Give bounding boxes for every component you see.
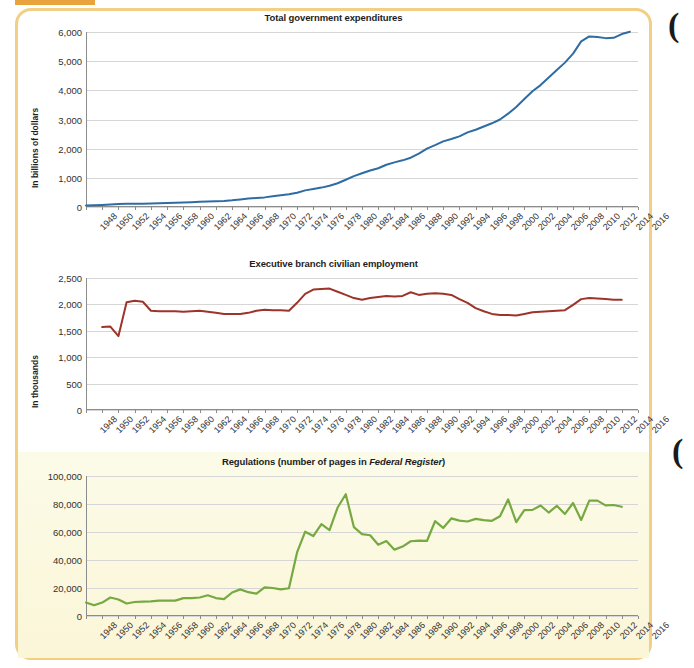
x-axis-tick-mark [86,616,87,619]
x-axis-tick-mark [362,616,363,619]
x-axis-tick-mark [86,410,87,413]
x-axis-tick-mark [524,616,525,619]
x-axis-tick-mark [118,616,119,619]
x-axis-tick-mark [606,616,607,619]
x-axis-tick-mark [476,616,477,619]
x-axis-tick-label: 2012 [617,414,638,435]
chart-3-title-suffix: ) [442,456,445,467]
x-axis-tick-mark [216,616,217,619]
y-axis-tick-label: 1,000 [58,172,82,183]
x-axis-tick-mark [541,616,542,619]
chart-total-government-expenditures: Total government expenditures In billion… [18,12,649,260]
x-axis-tick-mark [589,410,590,413]
x-axis-tick-label: 2010 [601,620,622,641]
x-axis-tick-mark [573,616,574,619]
x-axis-tick-label: 2002 [536,414,557,435]
y-axis-tick-label: 1,500 [58,325,82,336]
x-axis-tick-mark [102,410,103,413]
x-axis-tick-mark [135,207,136,210]
x-axis-tick-mark [330,616,331,619]
x-axis-tick-label: 1976 [325,620,346,641]
y-axis-tick-label: 40,000 [53,555,82,566]
x-axis-tick-mark [443,616,444,619]
x-axis-tick-mark [622,410,623,413]
y-axis-tick-label: 80,000 [53,499,82,510]
x-axis-tick-label: 1968 [260,211,281,232]
x-axis-tick-mark [411,207,412,210]
chart-1-y-axis-label: In billions of dollars [30,108,40,188]
x-axis-tick-mark [118,410,119,413]
x-axis-tick-mark [459,616,460,619]
chart-3-title-prefix: Regulations (number of pages in [222,456,369,467]
x-axis-tick-mark [346,207,347,210]
x-axis-tick-mark [622,616,623,619]
x-axis-tick-label: 1976 [325,414,346,435]
x-axis-tick-label: 1968 [260,414,281,435]
x-axis-tick-mark [200,410,201,413]
y-axis-tick-label: 20,000 [53,583,82,594]
y-axis-tick-label: 3,000 [58,114,82,125]
x-axis-tick-mark [281,410,282,413]
chart-2-plot-area: 05001,0001,5002,0002,5001948195019521954… [86,278,638,410]
x-axis-tick-mark [606,410,607,413]
edge-glyph-middle: ( [672,434,683,468]
x-axis-tick-label: 2010 [601,414,622,435]
x-axis-tick-mark [589,207,590,210]
x-axis-tick-mark [151,207,152,210]
x-axis-tick-mark [394,616,395,619]
x-axis-tick-mark [313,410,314,413]
x-axis-tick-mark [86,207,87,210]
x-axis-tick-mark [330,207,331,210]
x-axis-tick-mark [638,616,639,619]
x-axis-tick-mark [443,410,444,413]
x-axis-tick-label: 2016 [650,414,671,435]
x-axis-tick-mark [638,207,639,210]
x-axis-tick-mark [573,410,574,413]
x-axis-tick-label: 1968 [260,620,281,641]
x-axis-tick-mark [638,410,639,413]
x-axis-tick-mark [297,410,298,413]
y-axis-tick-label: 0 [77,611,82,622]
y-axis-tick-label: 0 [77,202,82,213]
x-axis-tick-label: 1994 [471,211,492,232]
x-axis-tick-mark [459,410,460,413]
x-axis-tick-mark [313,207,314,210]
x-axis-tick-mark [281,616,282,619]
x-axis-tick-mark [589,616,590,619]
x-axis-tick-mark [216,207,217,210]
chart-3-title-italic: Federal Register [369,456,442,467]
x-axis-tick-mark [151,410,152,413]
y-axis-tick-label: 2,500 [58,273,82,284]
x-axis-tick-mark [378,207,379,210]
x-axis-tick-mark [427,207,428,210]
x-axis-tick-mark [102,616,103,619]
x-axis-tick-mark [248,410,249,413]
x-axis-tick-label: 2016 [650,620,671,641]
chart-2-y-axis-label: In thousands [30,355,40,408]
x-axis-tick-mark [411,616,412,619]
chart-executive-branch-civilian-employment: Executive branch civilian employment In … [18,258,649,458]
y-axis-tick-label: 6,000 [58,27,82,38]
x-axis-tick-mark [459,207,460,210]
x-axis-tick-mark [443,207,444,210]
y-axis-tick-label: 5,000 [58,56,82,67]
x-axis-tick-mark [378,410,379,413]
x-axis-tick-mark [200,616,201,619]
x-axis-tick-mark [135,410,136,413]
x-axis-tick-mark [411,410,412,413]
y-axis-tick-label: 0 [77,405,82,416]
x-axis-tick-label: 1994 [471,620,492,641]
x-axis-tick-mark [135,616,136,619]
chart-1-plot-area: 01,0002,0003,0004,0005,0006,000194819501… [86,32,638,207]
x-axis-tick-mark [167,616,168,619]
x-axis-tick-mark [476,410,477,413]
x-axis-tick-mark [200,207,201,210]
x-axis-tick-mark [427,410,428,413]
x-axis-tick-mark [557,207,558,210]
x-axis-tick-label: 1978 [341,620,362,641]
x-axis-tick-mark [541,410,542,413]
x-axis-tick-label: 1978 [341,414,362,435]
x-axis-tick-label: 2002 [536,211,557,232]
x-axis-tick-mark [508,410,509,413]
x-axis-tick-label: 1952 [130,211,151,232]
